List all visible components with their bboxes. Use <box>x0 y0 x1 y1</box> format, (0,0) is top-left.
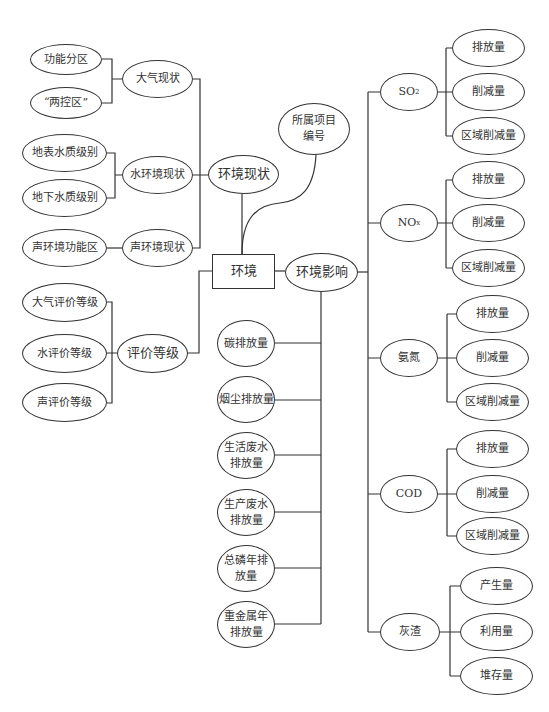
node-label: 产生量 <box>480 578 513 594</box>
node-label: 区域削减量 <box>465 528 520 544</box>
node-function-zone: 功能分区 <box>30 44 102 75</box>
node-label: 声评价等级 <box>37 395 92 411</box>
node-label: 区域削减量 <box>465 394 520 410</box>
node-label-line2: 编号 <box>303 129 325 145</box>
node-label: 区域削减量 <box>461 260 516 276</box>
node-ground-water-grade: 地下水质级别 <box>22 179 107 217</box>
node-water-grade: 水评价等级 <box>22 334 107 373</box>
node-cod-reduction: 削减量 <box>456 475 529 513</box>
node-ash-stored: 堆存量 <box>460 657 533 695</box>
node-environment-status: 环境现状 <box>208 155 279 194</box>
node-label: 削减量 <box>472 84 505 100</box>
node-evaluation-grade: 评价等级 <box>117 334 188 373</box>
node-label-line1: 重金属年 <box>224 609 268 625</box>
node-label: 水环境现状 <box>130 167 185 183</box>
node-label: 灰渣 <box>399 624 421 640</box>
node-label: 环境 <box>231 262 257 281</box>
node-subscript: 2 <box>415 87 419 97</box>
node-root-environment: 环境 <box>212 254 275 289</box>
node-two-control-zone: “两控区” <box>30 87 102 119</box>
node-ash-utilized: 利用量 <box>460 613 533 651</box>
node-ammonia-nitrogen: 氨氮 <box>380 339 438 377</box>
node-label: 氨氮 <box>398 350 420 366</box>
node-noise-grade: 声评价等级 <box>22 383 107 422</box>
node-label: 大气现状 <box>136 71 180 87</box>
node-so2-regional-reduction: 区域削减量 <box>452 117 525 155</box>
node-label: 削减量 <box>476 350 509 366</box>
node-label-line2: 放量 <box>235 569 257 585</box>
node-label: 水评价等级 <box>37 346 92 362</box>
node-label: “两控区” <box>44 95 88 111</box>
node-label: 堆存量 <box>480 668 513 684</box>
node-label-line1: 生产废水 <box>224 497 268 513</box>
node-dust-emission: 烟尘排放量 <box>217 376 275 423</box>
node-phosphorus-emission: 总磷年排放量 <box>217 545 275 592</box>
node-label-line1: 生活废水 <box>224 440 268 456</box>
node-label: 评价等级 <box>127 344 179 363</box>
node-ash-slag: 灰渣 <box>380 613 440 651</box>
node-nh3n-regional-reduction: 区域削减量 <box>456 383 529 421</box>
node-project-id: 所属项目 编号 <box>278 103 350 155</box>
node-label-line2: 排放量 <box>230 625 263 641</box>
node-nox-emission: 排放量 <box>452 161 525 199</box>
node-so2: SO2 <box>380 73 438 111</box>
node-label: 功能分区 <box>44 52 88 68</box>
node-air-grade: 大气评价等级 <box>22 283 107 322</box>
node-label: 区域削减量 <box>461 128 516 144</box>
node-label-line2: 排放量 <box>230 456 263 472</box>
node-noise-status: 声环境现状 <box>122 229 193 267</box>
node-cod-regional-reduction: 区域削减量 <box>456 517 529 555</box>
node-noise-function-zone: 声环境功能区 <box>22 229 107 267</box>
node-label: 烟尘排放量 <box>219 392 274 408</box>
node-nox-regional-reduction: 区域削减量 <box>452 249 525 287</box>
node-label: 大气评价等级 <box>32 295 98 311</box>
node-label: 排放量 <box>472 40 505 56</box>
node-label: 地下水质级别 <box>32 190 98 206</box>
node-label: 环境现状 <box>218 165 270 184</box>
node-domestic-wastewater: 生活废水排放量 <box>217 432 275 479</box>
node-label: 声环境现状 <box>130 240 185 256</box>
node-so2-emission: 排放量 <box>452 29 525 67</box>
node-label: 利用量 <box>480 624 513 640</box>
node-label-line2: 排放量 <box>230 513 263 529</box>
node-label: COD <box>396 486 422 502</box>
node-so2-reduction: 削减量 <box>452 73 525 111</box>
node-surface-water-grade: 地表水质级别 <box>22 134 107 172</box>
node-label: 环境影响 <box>296 263 348 282</box>
node-subscript: x <box>416 218 420 228</box>
node-label: 排放量 <box>472 172 505 188</box>
node-nox-reduction: 削减量 <box>452 204 525 242</box>
node-label: 削减量 <box>472 215 505 231</box>
node-label: 地表水质级别 <box>32 145 98 161</box>
node-nox: NOx <box>380 204 438 242</box>
node-nh3n-reduction: 削减量 <box>456 339 529 377</box>
node-heavy-metal-emission: 重金属年排放量 <box>217 601 275 648</box>
node-air-status: 大气现状 <box>122 60 193 98</box>
node-water-status: 水环境现状 <box>122 156 193 194</box>
node-cod: COD <box>380 475 438 513</box>
node-label: 排放量 <box>476 306 509 322</box>
node-label: 碳排放量 <box>224 336 268 352</box>
node-label: SO <box>398 84 415 100</box>
node-nh3n-emission: 排放量 <box>456 295 529 333</box>
node-carbon-emission: 碳排放量 <box>217 320 275 367</box>
node-label: 声环境功能区 <box>32 240 98 256</box>
node-production-wastewater: 生产废水排放量 <box>217 489 275 536</box>
node-environment-impact: 环境影响 <box>285 253 358 292</box>
node-label: 削减量 <box>476 486 509 502</box>
node-label-line1: 总磷年排 <box>224 553 268 569</box>
node-label: 排放量 <box>476 441 509 457</box>
node-ash-generated: 产生量 <box>460 567 533 605</box>
node-label: NO <box>398 215 417 231</box>
node-label-line1: 所属项目 <box>292 113 336 129</box>
node-cod-emission: 排放量 <box>456 430 529 468</box>
